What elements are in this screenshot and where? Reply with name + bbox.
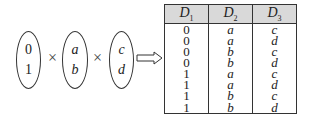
times-icon: × — [48, 49, 57, 67]
header-d1: D1 — [165, 5, 209, 24]
table-header-row: D1 D2 D3 — [165, 5, 297, 24]
set-d2-element-1: b — [72, 60, 79, 80]
set-d2-ellipse: a b — [62, 31, 88, 89]
set-d3-ellipse: c d — [109, 31, 134, 89]
header-d2: D2 — [209, 5, 253, 24]
set-d1-element-0: 0 — [25, 40, 32, 60]
times-icon: × — [93, 49, 102, 67]
header-d3: D3 — [253, 5, 297, 24]
set-d3-element-0: c — [118, 40, 124, 60]
set-d1-element-1: 1 — [25, 60, 32, 80]
table-row: 1bd — [165, 101, 297, 113]
cartesian-product-table: D1 D2 D3 0ac 0ad 0bc 0bd 1ac 1ad 1bc 1bd — [164, 4, 297, 114]
set-d3-element-1: d — [118, 60, 125, 80]
set-d1-ellipse: 0 1 — [16, 31, 41, 89]
double-arrow-icon — [136, 51, 164, 65]
set-d2-element-0: a — [72, 40, 79, 60]
